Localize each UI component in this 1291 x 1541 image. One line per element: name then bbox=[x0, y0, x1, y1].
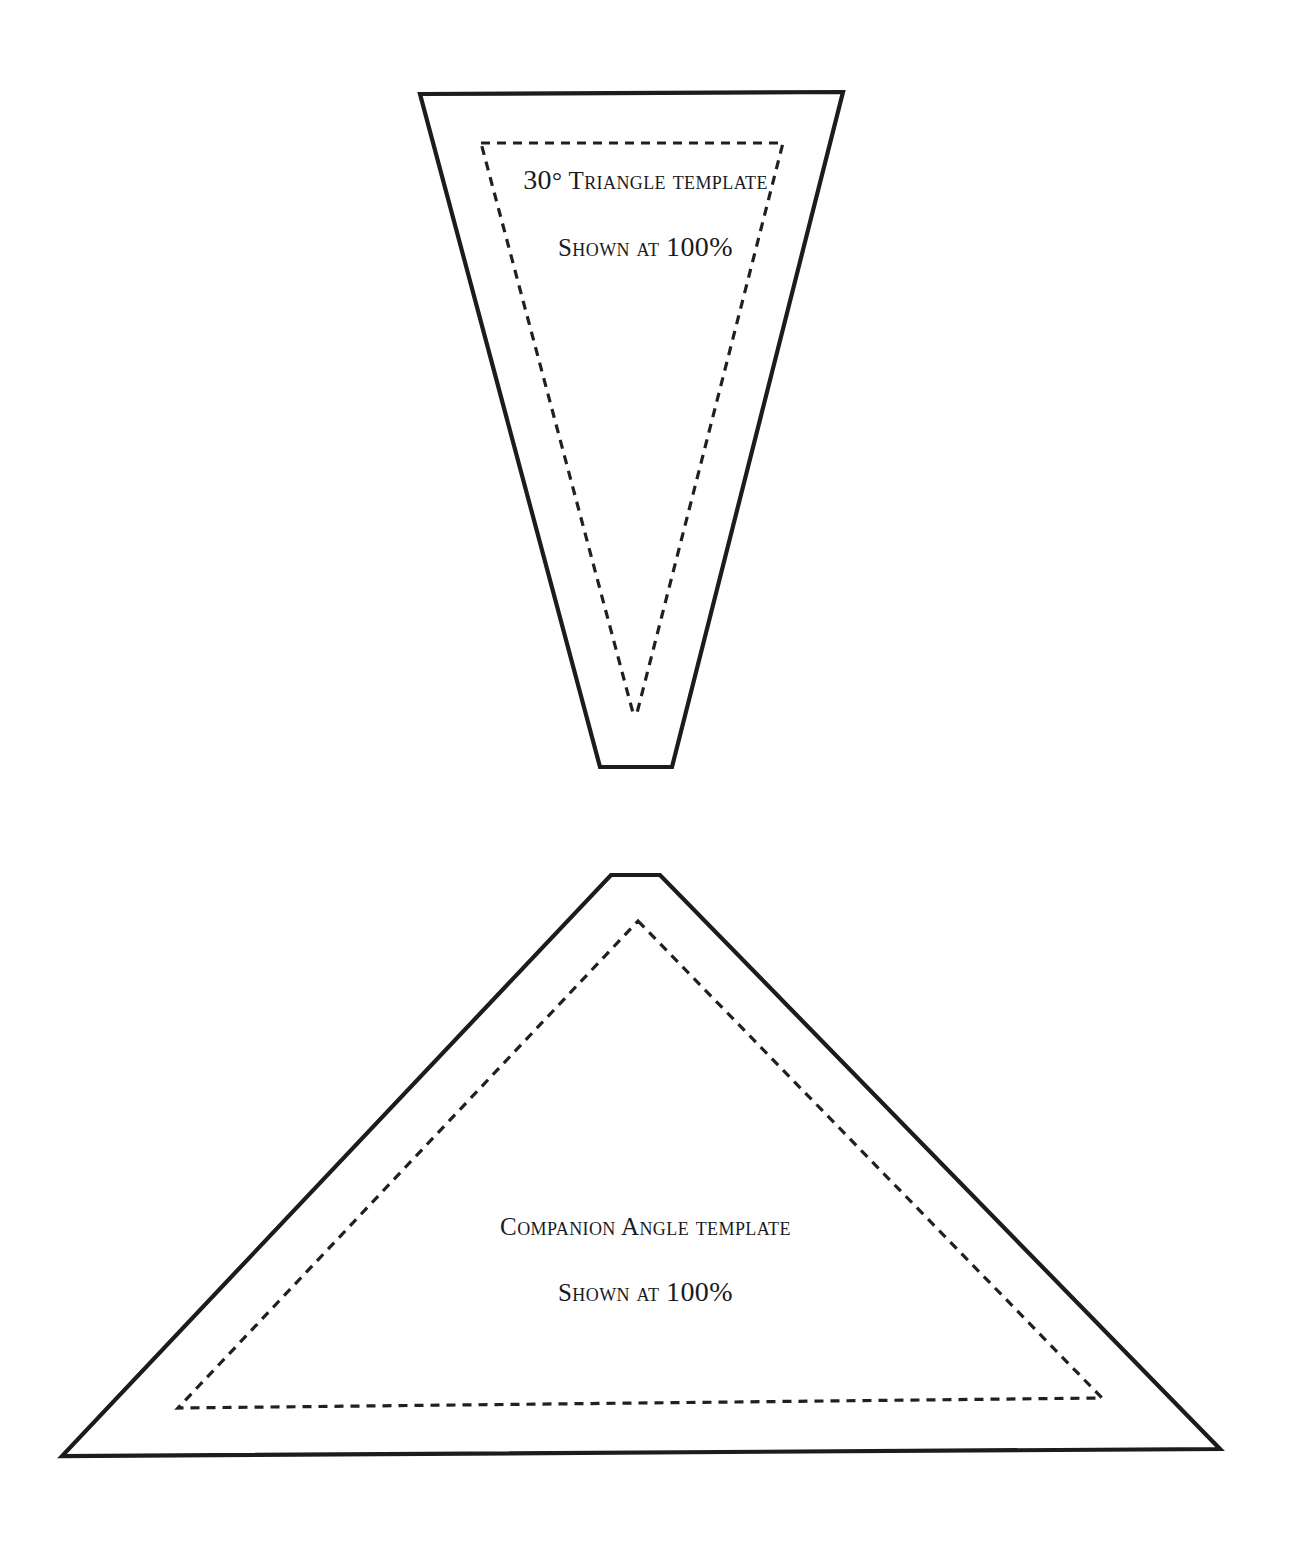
thirty-degree-angle-value: 30 bbox=[523, 164, 552, 195]
companion-angle-cutting-line bbox=[62, 875, 1220, 1456]
companion-angle-triangle-shape bbox=[62, 875, 1220, 1456]
template-sheet: 30° Triangle template Shown at 100% Comp… bbox=[0, 0, 1291, 1541]
degree-symbol-icon: ° bbox=[552, 167, 562, 194]
companion-angle-label-group: Companion Angle template Shown at 100% bbox=[0, 1212, 1291, 1309]
companion-angle-title-rest: Companion Angle template bbox=[500, 1213, 791, 1240]
thirty-degree-title-rest: Triangle template bbox=[569, 167, 768, 194]
companion-angle-scale-value: 100% bbox=[666, 1276, 733, 1307]
companion-angle-title: Companion Angle template bbox=[0, 1212, 1291, 1242]
thirty-degree-scale-value: 100% bbox=[666, 231, 733, 262]
thirty-degree-scale-note: Shown at 100% bbox=[0, 230, 1291, 264]
thirty-degree-scale-prefix: Shown at bbox=[558, 234, 659, 261]
companion-angle-scale-prefix: Shown at bbox=[558, 1279, 659, 1306]
thirty-degree-title: 30° Triangle template bbox=[0, 163, 1291, 197]
thirty-degree-label-group: 30° Triangle template Shown at 100% bbox=[0, 163, 1291, 263]
companion-angle-scale-note: Shown at 100% bbox=[0, 1275, 1291, 1309]
